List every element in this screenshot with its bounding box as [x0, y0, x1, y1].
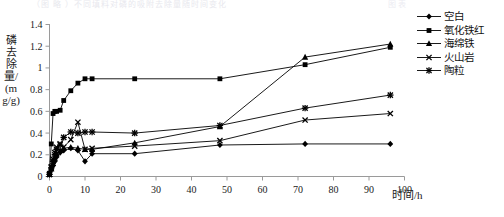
legend-item-4[interactable]: 火山岩 [416, 51, 504, 65]
x-tick-label: 80 [329, 184, 339, 195]
square-marker [132, 76, 137, 81]
star-marker [132, 130, 138, 136]
x-tick-label: 70 [293, 184, 303, 195]
square-marker [416, 24, 442, 37]
y-tick-label: 0.4 [30, 128, 43, 139]
square-marker [68, 88, 73, 93]
legend-item-2[interactable]: 氧化铁红 [416, 24, 504, 38]
x-tick-label: 10 [80, 184, 90, 195]
x-marker [68, 137, 73, 142]
triangle-marker [416, 37, 442, 50]
star-marker [217, 122, 223, 128]
star-marker [82, 129, 88, 135]
square-marker [83, 76, 88, 81]
x-tick-label: 60 [258, 184, 268, 195]
y-tick-label: 0 [38, 171, 43, 182]
diamond-marker [416, 10, 442, 23]
legend-item-label: 火山岩 [442, 51, 474, 64]
x-tick-label: 50 [222, 184, 232, 195]
series-2 [47, 45, 393, 176]
series-1 [47, 141, 394, 178]
star-marker [61, 134, 67, 140]
y-tick-label: 0.2 [30, 149, 43, 160]
x-marker [416, 51, 442, 64]
star-marker [50, 158, 56, 164]
star-marker [416, 64, 442, 77]
legend-item-3[interactable]: 海绵铁 [416, 37, 504, 51]
chart-screenshot: （图 略 ）不同填料对磷的吸附去除量随时间变化 图 表 磷去除量/(mg/g) … [0, 0, 504, 217]
star-marker [57, 142, 63, 148]
diamond-marker [387, 141, 393, 147]
legend-item-label: 海绵铁 [442, 37, 474, 50]
y-tick-label: 1 [38, 62, 43, 73]
chart-legend: 空白氧化铁红海绵铁火山岩陶粒 [416, 10, 504, 78]
star-marker [89, 129, 95, 135]
series-3 [46, 41, 393, 177]
y-tick-label: 1.4 [30, 19, 43, 30]
y-tick-label: 1.2 [30, 41, 43, 52]
legend-item-1[interactable]: 空白 [416, 10, 504, 24]
x-tick-label: 20 [116, 184, 126, 195]
series-5 [46, 92, 393, 178]
star-marker [68, 129, 74, 135]
diamond-marker [302, 141, 308, 147]
x-marker [75, 120, 80, 125]
x-tick-label: 40 [187, 184, 197, 195]
y-tick-label: 0.6 [30, 106, 43, 117]
diamond-marker [426, 14, 432, 20]
legend-item-label: 空白 [442, 10, 464, 23]
x-tick-label: 100 [397, 184, 412, 195]
square-marker [90, 76, 95, 81]
star-marker [302, 105, 308, 111]
triangle-marker [387, 41, 393, 47]
square-marker [49, 142, 54, 147]
star-marker [387, 92, 393, 98]
x-tick-label: 0 [47, 184, 52, 195]
square-marker [218, 76, 223, 81]
y-tick-label: 0.8 [30, 84, 43, 95]
x-tick-label: 90 [364, 184, 374, 195]
square-marker [427, 28, 432, 33]
triangle-marker [68, 144, 74, 150]
star-marker [426, 68, 432, 74]
star-marker [46, 171, 52, 177]
x-tick-label: 30 [151, 184, 161, 195]
legend-item-5[interactable]: 陶粒 [416, 64, 504, 78]
square-marker [303, 62, 308, 67]
square-marker [58, 108, 63, 113]
legend-item-label: 氧化铁红 [442, 24, 484, 37]
star-marker [75, 130, 81, 136]
legend-item-label: 陶粒 [442, 64, 464, 77]
diamond-marker [132, 151, 138, 157]
square-marker [61, 98, 66, 103]
square-marker [76, 81, 81, 86]
star-marker [48, 165, 54, 171]
